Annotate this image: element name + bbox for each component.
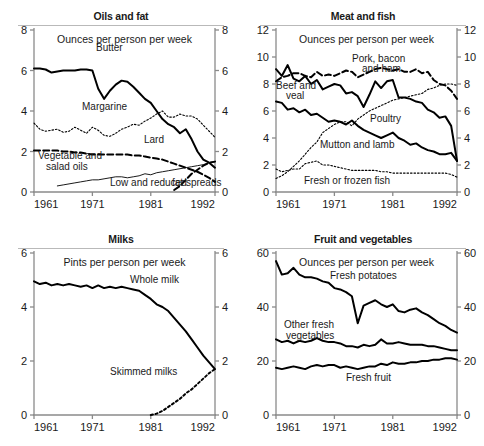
series-label: salad oils: [46, 161, 88, 172]
y-tick-label-left: 0: [263, 409, 269, 421]
series-label: Butter: [96, 42, 123, 53]
plot-milks: Pints per person per week002244661961197…: [0, 223, 242, 446]
series-label: veal: [286, 90, 304, 101]
panel-subtitle: Ounces per person per week: [299, 33, 435, 45]
y-tick-label-right: 12: [464, 24, 476, 36]
y-tick-label-left: 10: [257, 51, 269, 63]
series-label: Whole milk: [130, 274, 180, 285]
series-label: Vegetable and: [38, 150, 102, 161]
series-label: and ham: [362, 63, 401, 74]
x-tick-label: 1992: [191, 198, 215, 210]
panel-subtitle: Ounces per person per week: [299, 256, 435, 268]
panel-title-oils-and-fat: Oils and fat: [0, 10, 242, 22]
x-tick-label: 1971: [322, 421, 346, 433]
y-tick-label-right: 8: [464, 78, 470, 90]
y-tick-label-right: 40: [464, 301, 476, 313]
y-tick-label-right: 2: [222, 146, 228, 158]
panel-meat-and-fish: Meat and fish Ounces per person per week…: [242, 0, 484, 223]
series-label: vegetables: [286, 330, 334, 341]
series-label: Skimmed milks: [110, 366, 177, 377]
y-tick-label-right: 0: [464, 409, 470, 421]
y-tick-label-left: 0: [21, 409, 27, 421]
series-label: Other fresh: [284, 319, 334, 330]
y-tick-label-right: 6: [464, 105, 470, 117]
series-label: Lard: [144, 134, 164, 145]
y-tick-label-right: 2: [464, 159, 470, 171]
series-label: Fresh or frozen fish: [304, 175, 390, 186]
series-label: fat spreads: [172, 177, 221, 188]
y-tick-label-right: 60: [464, 247, 476, 259]
y-tick-label-left: 0: [21, 186, 27, 198]
x-tick-label: 1961: [276, 198, 300, 210]
panel-title-meat-and-fish: Meat and fish: [242, 10, 484, 22]
y-tick-label-right: 4: [222, 301, 228, 313]
title-rule: [18, 25, 224, 26]
x-tick-label: 1981: [139, 198, 163, 210]
title-rule: [18, 248, 224, 249]
plot-fruit-and-vegetables: Ounces per person per week00202040406060…: [242, 223, 484, 446]
y-tick-label-left: 2: [21, 355, 27, 367]
series-line: [276, 358, 457, 369]
y-tick-label-right: 6: [222, 65, 228, 77]
panel-subtitle: Pints per person per week: [64, 256, 187, 268]
y-tick-label-right: 0: [222, 409, 228, 421]
y-tick-label-left: 4: [263, 132, 269, 144]
series-label: Margarine: [82, 101, 127, 112]
y-tick-label-left: 6: [263, 105, 269, 117]
y-tick-label-right: 0: [222, 186, 228, 198]
x-tick-label: 1981: [381, 421, 405, 433]
y-tick-label-right: 6: [222, 247, 228, 259]
y-tick-label-left: 60: [257, 247, 269, 259]
series-label: Fresh fruit: [346, 372, 391, 383]
y-tick-label-right: 0: [464, 186, 470, 198]
x-tick-label: 1961: [34, 421, 58, 433]
y-tick-label-right: 2: [222, 355, 228, 367]
series-line: [34, 281, 215, 369]
series-label: Poultry: [370, 113, 401, 124]
x-tick-label: 1961: [34, 198, 58, 210]
y-tick-label-right: 10: [464, 51, 476, 63]
y-tick-label-left: 4: [21, 105, 27, 117]
y-tick-label-left: 8: [263, 78, 269, 90]
x-tick-label: 1992: [191, 421, 215, 433]
y-tick-label-left: 20: [257, 355, 269, 367]
plot-oils-and-fat: Ounces per person per week00224466881961…: [0, 0, 242, 223]
y-tick-label-left: 2: [263, 159, 269, 171]
y-tick-label-right: 4: [464, 132, 470, 144]
y-tick-label-left: 8: [21, 24, 27, 36]
y-tick-label-right: 20: [464, 355, 476, 367]
panel-fruit-and-vegetables: Fruit and vegetables Ounces per person p…: [242, 223, 484, 446]
y-tick-label-left: 6: [21, 247, 27, 259]
x-tick-label: 1971: [322, 198, 346, 210]
x-tick-label: 1992: [433, 421, 457, 433]
title-rule: [260, 248, 466, 249]
x-tick-label: 1981: [381, 198, 405, 210]
panel-title-fruit-and-vegetables: Fruit and vegetables: [242, 233, 484, 245]
series-label: Mutton and lamb: [320, 139, 395, 150]
x-tick-label: 1981: [139, 421, 163, 433]
y-tick-label-left: 4: [21, 301, 27, 313]
y-tick-label-right: 8: [222, 24, 228, 36]
panel-title-milks: Milks: [0, 233, 242, 245]
plot-meat-and-fish: Ounces per person per week00224466881010…: [242, 0, 484, 223]
panel-milks: Milks Pints per person per week002244661…: [0, 223, 242, 446]
y-tick-label-left: 12: [257, 24, 269, 36]
panel-subtitle: Ounces per person per week: [57, 33, 193, 45]
series-label: Fresh potatoes: [330, 270, 397, 281]
y-tick-label-left: 2: [21, 146, 27, 158]
y-tick-label-right: 4: [222, 105, 228, 117]
x-tick-label: 1961: [276, 421, 300, 433]
x-tick-label: 1971: [80, 198, 104, 210]
y-tick-label-left: 6: [21, 65, 27, 77]
panel-oils-and-fat: Oils and fat Ounces per person per week0…: [0, 0, 242, 223]
y-tick-label-left: 40: [257, 301, 269, 313]
y-tick-label-left: 0: [263, 186, 269, 198]
chart-grid: Oils and fat Ounces per person per week0…: [0, 0, 484, 446]
title-rule: [260, 25, 466, 26]
x-tick-label: 1992: [433, 198, 457, 210]
x-tick-label: 1971: [80, 421, 104, 433]
